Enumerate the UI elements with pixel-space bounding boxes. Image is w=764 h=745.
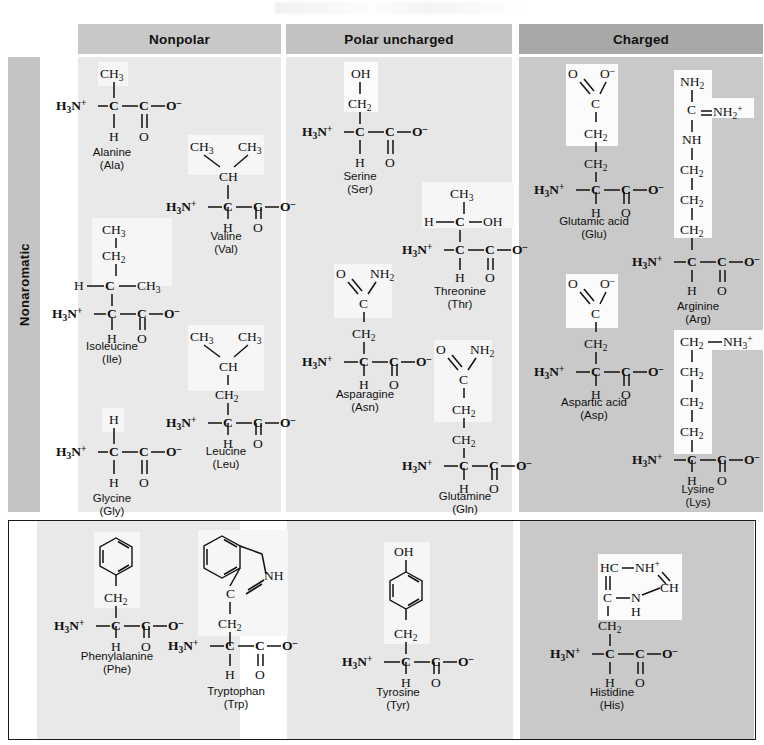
structure-isoleucine: CH3 CH2 H C CH3 H3N+ C C O– bbox=[52, 218, 222, 328]
svg-text:C: C bbox=[225, 638, 235, 653]
svg-text:O: O bbox=[139, 475, 149, 490]
structure-histidine-lower: H O bbox=[562, 662, 752, 688]
svg-text:O–: O– bbox=[412, 124, 428, 139]
svg-text:H: H bbox=[424, 214, 434, 229]
svg-text:NH: NH bbox=[264, 568, 284, 583]
label-lysine: Lysine (Lys) bbox=[648, 483, 748, 509]
label-isoleucine: Isoleucine (Ile) bbox=[62, 340, 162, 366]
svg-text:O: O bbox=[568, 66, 578, 81]
svg-text:OH: OH bbox=[394, 544, 414, 559]
svg-text:OH: OH bbox=[483, 214, 503, 229]
svg-text:H3N+: H3N+ bbox=[302, 124, 332, 141]
figure-canvas: Nonpolar Polar uncharged Charged Nonarom… bbox=[0, 0, 764, 745]
structure-serine: OH CH2 H3N+ C C O– H O bbox=[298, 62, 468, 167]
scan-artifact bbox=[275, 2, 525, 14]
label-glutamine: Glutamine (Gln) bbox=[410, 490, 520, 516]
svg-text:C: C bbox=[455, 214, 465, 229]
row-header-nonaromatic: Nonaromatic bbox=[8, 57, 40, 512]
structure-arginine: NH2 C NH2+ NH CH2 CH2 CH2 bbox=[632, 70, 764, 260]
structure-histidine: HC NH+ C N H CH CH2 H3N+ C bbox=[562, 550, 752, 680]
svg-text:H3N+: H3N+ bbox=[168, 638, 198, 655]
svg-text:H: H bbox=[225, 667, 235, 682]
svg-text:O–: O– bbox=[512, 242, 528, 257]
svg-text:O–: O– bbox=[744, 254, 760, 269]
svg-text:CH2: CH2 bbox=[584, 336, 608, 353]
svg-text:C: C bbox=[139, 444, 149, 459]
svg-text:C: C bbox=[591, 306, 600, 321]
svg-text:CH: CH bbox=[660, 580, 679, 595]
label-alanine: Alanine (Ala) bbox=[62, 146, 162, 172]
svg-text:C: C bbox=[359, 296, 368, 311]
svg-text:O: O bbox=[717, 283, 727, 298]
structure-tyrosine-lower: H O bbox=[336, 662, 516, 688]
svg-text:O: O bbox=[568, 276, 578, 291]
svg-text:C: C bbox=[459, 372, 468, 387]
svg-text:H: H bbox=[109, 412, 119, 427]
structure-tyrosine: OH CH2 H3N+ C C O– bbox=[336, 540, 516, 670]
svg-text:O–: O– bbox=[166, 98, 182, 113]
svg-text:CH2: CH2 bbox=[584, 156, 608, 173]
svg-text:CH2: CH2 bbox=[452, 432, 476, 449]
svg-text:CH2: CH2 bbox=[598, 618, 622, 635]
label-serine: Serine (Ser) bbox=[310, 170, 410, 196]
svg-text:H: H bbox=[74, 278, 84, 293]
column-header-polar-label: Polar uncharged bbox=[344, 32, 454, 47]
label-phenylalanine: Phenylalanine (Phe) bbox=[52, 650, 182, 676]
svg-text:C: C bbox=[455, 242, 465, 257]
svg-text:C: C bbox=[255, 638, 265, 653]
svg-text:H3N+: H3N+ bbox=[632, 254, 662, 271]
svg-text:C: C bbox=[226, 586, 235, 601]
structure-alanine: CH3 H3N+ C C O– H O bbox=[52, 62, 212, 142]
svg-text:C: C bbox=[109, 98, 119, 113]
svg-text:C: C bbox=[605, 646, 615, 661]
column-header-nonpolar: Nonpolar bbox=[78, 24, 281, 54]
svg-text:O–: O– bbox=[662, 646, 678, 661]
svg-text:NH2+: NH2+ bbox=[713, 104, 743, 121]
svg-text:C: C bbox=[109, 444, 119, 459]
svg-text:O–: O– bbox=[166, 444, 182, 459]
svg-text:C: C bbox=[105, 278, 115, 293]
svg-text:HC: HC bbox=[600, 560, 619, 575]
svg-text:H: H bbox=[109, 129, 119, 144]
svg-text:O: O bbox=[385, 155, 395, 170]
svg-text:O: O bbox=[139, 129, 149, 144]
label-histidine: Histidine (His) bbox=[562, 686, 662, 712]
label-glycine: Glycine (Gly) bbox=[62, 492, 162, 518]
svg-text:H: H bbox=[631, 604, 641, 619]
svg-text:H3N+: H3N+ bbox=[550, 646, 580, 663]
column-header-nonpolar-label: Nonpolar bbox=[149, 32, 210, 47]
svg-text:C: C bbox=[591, 96, 600, 111]
row-header-nonaromatic-label: Nonaromatic bbox=[17, 243, 32, 326]
svg-text:C: C bbox=[635, 646, 645, 661]
svg-text:C: C bbox=[687, 254, 697, 269]
svg-text:C: C bbox=[717, 254, 727, 269]
svg-text:H3N+: H3N+ bbox=[56, 98, 86, 115]
svg-text:CH: CH bbox=[219, 359, 238, 374]
label-tryptophan: Tryptophan (Trp) bbox=[176, 685, 296, 711]
svg-text:H3N+: H3N+ bbox=[56, 444, 86, 461]
svg-text:H: H bbox=[355, 155, 365, 170]
svg-text:O: O bbox=[436, 342, 446, 357]
svg-text:H: H bbox=[109, 475, 119, 490]
column-header-charged: Charged bbox=[519, 24, 763, 54]
svg-text:CH2: CH2 bbox=[352, 326, 376, 343]
svg-text:CH: CH bbox=[219, 169, 238, 184]
svg-text:N: N bbox=[631, 590, 641, 605]
structure-tryptophan-backbone: H3N+ C C O– H O bbox=[170, 632, 350, 692]
label-tyrosine: Tyrosine (Tyr) bbox=[348, 686, 448, 712]
svg-text:O: O bbox=[255, 667, 265, 682]
svg-text:O: O bbox=[336, 266, 346, 281]
svg-text:C: C bbox=[485, 242, 495, 257]
svg-text:NH: NH bbox=[682, 132, 702, 147]
svg-text:C: C bbox=[139, 98, 149, 113]
structure-glycine: H H3N+ C C O– H O bbox=[52, 408, 212, 488]
svg-text:OH: OH bbox=[351, 66, 371, 81]
svg-text:O–: O– bbox=[282, 638, 298, 653]
svg-text:H3N+: H3N+ bbox=[402, 242, 432, 259]
column-header-charged-label: Charged bbox=[613, 32, 669, 47]
svg-text:O: O bbox=[485, 270, 495, 285]
svg-text:C: C bbox=[687, 102, 696, 117]
svg-text:C: C bbox=[355, 124, 365, 139]
column-header-polar-uncharged: Polar uncharged bbox=[286, 24, 512, 54]
svg-text:C: C bbox=[603, 590, 612, 605]
